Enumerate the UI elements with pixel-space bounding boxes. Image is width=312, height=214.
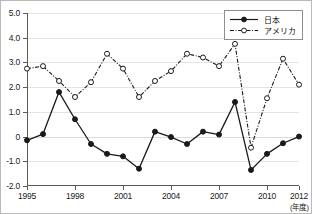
series-line [27, 44, 299, 148]
data-point-marker [281, 141, 286, 146]
x-tick-label: 1998 [66, 191, 84, 201]
x-tick [299, 186, 300, 190]
data-point-marker [57, 78, 62, 83]
data-point-marker [137, 95, 142, 100]
y-tick-label: -2.0 [6, 181, 20, 191]
data-point-marker [297, 82, 302, 87]
x-tick [75, 186, 76, 190]
data-point-marker [153, 129, 158, 134]
data-point-marker [105, 51, 110, 56]
y-tick-label: 5.0 [9, 8, 20, 18]
data-point-marker [73, 95, 78, 100]
legend-label-japan: 日本 [264, 14, 280, 25]
x-tick-label: 2001 [114, 191, 132, 201]
data-point-marker [89, 141, 94, 146]
data-point-marker [169, 135, 174, 140]
x-tick-label: 2010 [258, 191, 276, 201]
y-tick-label: -1.0 [6, 156, 20, 166]
data-point-marker [249, 145, 254, 150]
data-point-marker [25, 66, 30, 71]
data-point-marker [153, 78, 158, 83]
data-point-marker [169, 69, 174, 74]
data-point-marker [201, 55, 206, 60]
legend-item-america[interactable]: アメリカ [229, 25, 296, 36]
data-point-marker [297, 134, 302, 139]
data-point-marker [281, 56, 286, 61]
data-point-marker [121, 154, 126, 159]
x-tick [267, 186, 268, 190]
data-point-marker [25, 138, 30, 143]
data-point-marker [265, 96, 270, 101]
x-tick [27, 186, 28, 190]
data-point-marker [89, 80, 94, 85]
x-tick-label: 1995 [18, 191, 36, 201]
data-point-marker [217, 132, 222, 137]
x-tick [123, 186, 124, 190]
y-tick-label: 0 [15, 132, 20, 142]
y-tick-label: 1.0 [9, 107, 20, 117]
data-point-marker [185, 141, 190, 146]
series-line [27, 92, 299, 170]
legend-item-japan[interactable]: 日本 [229, 14, 296, 25]
data-point-marker [105, 151, 110, 156]
legend-label-america: アメリカ [264, 25, 296, 36]
data-point-marker [265, 151, 270, 156]
data-point-marker [233, 99, 238, 104]
data-point-marker [41, 132, 46, 137]
legend-sample-dashdot-line [229, 25, 259, 36]
y-tick-label: 2.0 [9, 82, 20, 92]
y-tick-label: 4.0 [9, 33, 20, 43]
y-tick-label: 3.0 [9, 57, 20, 67]
data-point-marker [121, 66, 126, 71]
x-tick-label: 2007 [210, 191, 228, 201]
data-point-marker [41, 64, 46, 69]
data-point-marker [217, 64, 222, 69]
x-tick-label: 2012 [290, 191, 308, 201]
x-axis-unit-label: (年度) [290, 201, 309, 212]
x-tick-label: 2004 [162, 191, 180, 201]
data-point-marker [201, 129, 206, 134]
data-point-marker [185, 51, 190, 56]
data-point-marker [57, 90, 62, 95]
x-tick [171, 186, 172, 190]
data-point-marker [249, 167, 254, 172]
data-point-marker [233, 41, 238, 46]
legend-sample-solid-line [229, 14, 259, 25]
line-chart: 5.04.03.02.01.00-1.0-2.0 199519982001200… [0, 0, 312, 214]
data-point-marker [137, 166, 142, 171]
x-tick [219, 186, 220, 190]
chart-legend: 日本 アメリカ [224, 10, 303, 40]
data-point-marker [73, 117, 78, 122]
